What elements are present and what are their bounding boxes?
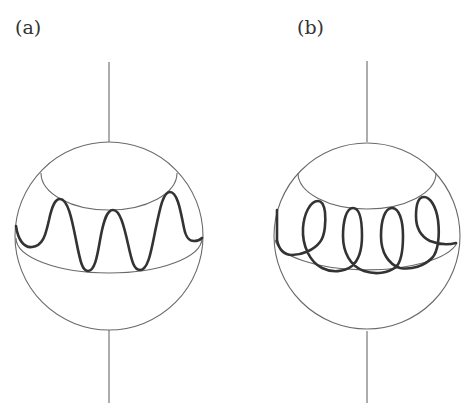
diagram-canvas [0,0,462,416]
equator-arc-b [275,240,457,270]
upper-latitude-arc-b [298,173,436,209]
loop-curve-b [277,197,456,273]
panel-b [274,61,460,403]
panel-a [15,62,203,403]
upper-latitude-arc-a [41,173,177,210]
wave-curve-a [16,192,202,271]
diagram-figure: (a) (b) [0,0,462,416]
equator-arc-a [16,238,202,273]
